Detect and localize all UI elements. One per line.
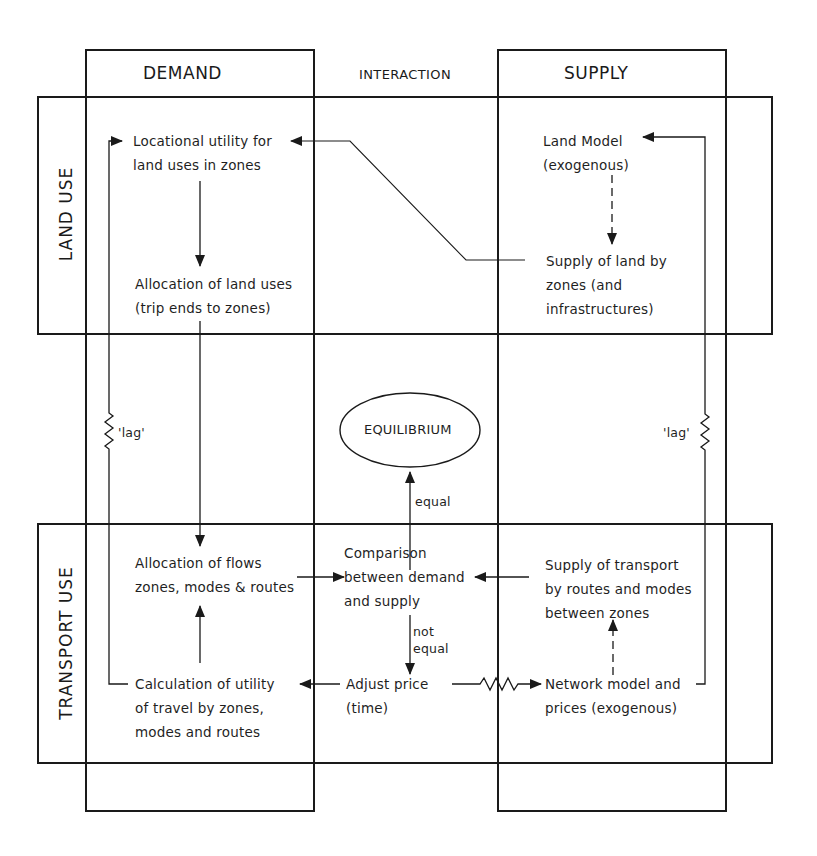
node-adjust-price-line-1: Adjust price bbox=[346, 672, 429, 696]
edge-label-not-equal: not equal bbox=[413, 623, 449, 657]
node-calculation-utility-line-2: of travel by zones, bbox=[135, 696, 275, 720]
node-comparison-line-2: between demand bbox=[344, 565, 465, 589]
node-supply-transport: Supply of transport by routes and modes … bbox=[545, 553, 692, 625]
column-header-supply: SUPPLY bbox=[564, 63, 628, 83]
column-header-interaction: INTERACTION bbox=[359, 67, 451, 82]
node-locational-utility-line-2: land uses in zones bbox=[133, 153, 272, 177]
node-allocation-flows: Allocation of flows zones, modes & route… bbox=[135, 551, 294, 599]
edge-label-lag-right: 'lag' bbox=[663, 424, 690, 441]
node-supply-transport-line-1: Supply of transport bbox=[545, 553, 692, 577]
row-header-land-use: LAND USE bbox=[56, 167, 76, 262]
node-adjust-price-line-2: (time) bbox=[346, 696, 429, 720]
edge-label-equal: equal bbox=[415, 493, 451, 510]
node-network-model: Network model and prices (exogenous) bbox=[545, 672, 681, 720]
node-network-model-line-2: prices (exogenous) bbox=[545, 696, 681, 720]
edge-label-not-equal-line-2: equal bbox=[413, 640, 449, 657]
node-locational-utility-line-1: Locational utility for bbox=[133, 129, 272, 153]
node-supply-transport-line-2: by routes and modes bbox=[545, 577, 692, 601]
node-calculation-utility-line-3: modes and routes bbox=[135, 720, 275, 744]
node-supply-of-land-line-1: Supply of land by bbox=[546, 249, 667, 273]
left-feedback-line bbox=[105, 141, 128, 684]
node-comparison: Comparison between demand and supply bbox=[344, 541, 465, 613]
node-locational-utility: Locational utility for land uses in zone… bbox=[133, 129, 272, 177]
node-land-model-line-1: Land Model bbox=[543, 129, 629, 153]
node-calculation-utility-line-1: Calculation of utility bbox=[135, 672, 275, 696]
node-allocation-land-uses-line-2: (trip ends to zones) bbox=[135, 296, 292, 320]
node-supply-of-land-line-3: infrastructures) bbox=[546, 297, 667, 321]
node-land-model-line-2: (exogenous) bbox=[543, 153, 629, 177]
node-comparison-line-3: and supply bbox=[344, 589, 465, 613]
node-allocation-land-uses-line-1: Allocation of land uses bbox=[135, 272, 292, 296]
node-supply-transport-line-3: between zones bbox=[545, 601, 692, 625]
node-comparison-line-1: Comparison bbox=[344, 541, 465, 565]
edge-label-lag-left: 'lag' bbox=[118, 424, 145, 441]
node-adjust-price: Adjust price (time) bbox=[346, 672, 429, 720]
node-allocation-flows-line-1: Allocation of flows bbox=[135, 551, 294, 575]
column-header-demand: DEMAND bbox=[143, 63, 222, 83]
node-calculation-utility: Calculation of utility of travel by zone… bbox=[135, 672, 275, 744]
arrow-adjust-to-network bbox=[452, 678, 541, 690]
node-network-model-line-1: Network model and bbox=[545, 672, 681, 696]
node-allocation-land-uses: Allocation of land uses (trip ends to zo… bbox=[135, 272, 292, 320]
node-supply-of-land: Supply of land by zones (and infrastruct… bbox=[546, 249, 667, 321]
node-equilibrium: EQUILIBRIUM bbox=[364, 418, 452, 442]
node-supply-of-land-line-2: zones (and bbox=[546, 273, 667, 297]
edge-label-not-equal-line-1: not bbox=[413, 623, 449, 640]
node-land-model: Land Model (exogenous) bbox=[543, 129, 629, 177]
row-header-transport-use: TRANSPORT USE bbox=[56, 566, 76, 720]
arrow-supply-land-to-locational bbox=[291, 141, 525, 260]
node-allocation-flows-line-2: zones, modes & routes bbox=[135, 575, 294, 599]
